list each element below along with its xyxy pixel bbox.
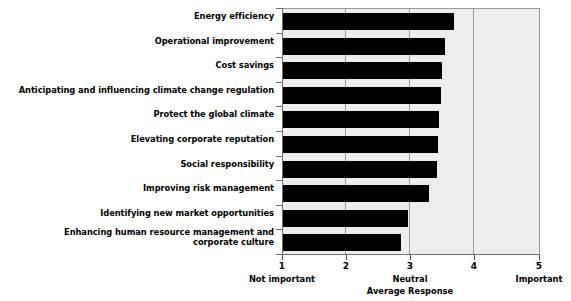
x-tick-label-5: 5 <box>519 261 559 271</box>
x-axis-title: Average Response <box>367 286 453 296</box>
category-tick <box>276 106 283 107</box>
category-label: Identifying new market opportunities <box>0 209 274 219</box>
category-label-line: Energy efficiency <box>194 11 274 21</box>
anchor-label-important: Important <box>516 274 563 284</box>
x-axis-line <box>282 254 540 255</box>
plot-area <box>282 8 540 254</box>
anchor-label-not-important: Not important <box>249 274 315 284</box>
bar-social-responsibility <box>282 161 437 178</box>
x-tick-mark-5 <box>539 255 540 260</box>
category-tick <box>276 229 283 230</box>
category-label-line: Anticipating and influencing climate cha… <box>19 85 274 95</box>
category-label-line: Cost savings <box>215 60 274 70</box>
bar-protect-global-climate <box>282 111 439 128</box>
anchor-label-neutral: Neutral <box>393 274 428 284</box>
category-label: Improving risk management <box>0 184 274 194</box>
category-label: Protect the global climate <box>0 110 274 120</box>
x-tick-mark-1 <box>282 255 283 260</box>
category-label: Social responsibility <box>0 160 274 170</box>
x-tick-label-2: 2 <box>326 261 366 271</box>
x-tick-label-4: 4 <box>454 261 494 271</box>
category-label-line: Elevating corporate reputation <box>131 134 274 144</box>
bar-human-resource-management <box>282 234 401 251</box>
x-tick-label-1: 1 <box>262 261 302 271</box>
category-label: Enhancing human resource management and … <box>0 228 274 247</box>
category-tick <box>276 57 283 58</box>
category-tick <box>276 33 283 34</box>
category-label-line: corporate culture <box>0 238 274 248</box>
gridline-x-4 <box>473 9 474 254</box>
x-tick-mark-3 <box>410 255 411 260</box>
category-label-line: Identifying new market opportunities <box>100 208 274 218</box>
bar-cost-savings <box>282 62 442 79</box>
bar-operational-improvement <box>282 38 445 55</box>
x-tick-mark-4 <box>474 255 475 260</box>
category-label-line: Enhancing human resource management and <box>64 227 274 237</box>
x-tick-mark-2 <box>346 255 347 260</box>
category-tick <box>276 156 283 157</box>
category-label-column: Energy efficiency Operational improvemen… <box>0 8 278 254</box>
category-tick <box>276 82 283 83</box>
category-label: Elevating corporate reputation <box>0 135 274 145</box>
category-tick <box>276 8 283 9</box>
category-label-line: Protect the global climate <box>153 109 274 119</box>
category-label-line: Operational improvement <box>155 36 274 46</box>
horizontal-bar-chart: Energy efficiency Operational improvemen… <box>0 0 571 301</box>
bar-improving-risk-management <box>282 185 429 202</box>
x-tick-label-3: 3 <box>390 261 430 271</box>
category-tick <box>276 205 283 206</box>
category-label-line: Improving risk management <box>143 183 274 193</box>
bar-elevating-corporate-reputation <box>282 136 438 153</box>
category-label-line: Social responsibility <box>180 159 274 169</box>
bar-energy-efficiency <box>282 13 454 30</box>
category-label: Anticipating and influencing climate cha… <box>0 86 274 96</box>
bar-climate-change-regulation <box>282 87 441 104</box>
category-label: Cost savings <box>0 61 274 71</box>
category-tick <box>276 131 283 132</box>
category-label: Operational improvement <box>0 37 274 47</box>
bar-new-market-opportunities <box>282 210 408 227</box>
category-label: Energy efficiency <box>0 12 274 22</box>
category-tick <box>276 180 283 181</box>
